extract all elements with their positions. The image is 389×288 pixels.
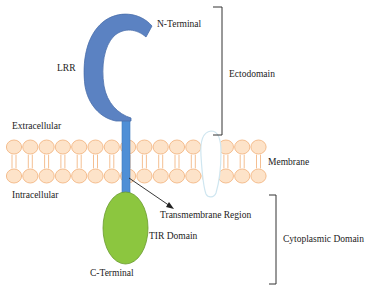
ectodomain-bracket [213,7,222,135]
lrr-c-shape [84,14,152,121]
tir-domain-label: TIR Domain [149,231,197,242]
extracellular-label: Extracellular [12,121,61,132]
ectodomain-label: Ectodomain [229,69,275,80]
tir-domain-ellipse [103,192,148,264]
membrane-label: Membrane [268,157,309,168]
membrane-protein-shape [201,131,221,197]
lipid-bilayer [6,140,266,183]
c-terminal-label: C-Terminal [90,268,134,279]
n-terminal-label: N-Terminal [157,19,201,30]
cytoplasmic-bracket [269,195,276,284]
intracellular-label: Intracellular [12,190,58,201]
transmembrane-stem [122,118,130,194]
transmembrane-region-label: Transmembrane Region [160,210,251,221]
lrr-label: LRR [57,63,75,74]
tlr-structure-diagram: N-Terminal LRR Ectodomain Extracellular … [0,0,389,288]
cytoplasmic-domain-label: Cytoplasmic Domain [283,234,364,245]
